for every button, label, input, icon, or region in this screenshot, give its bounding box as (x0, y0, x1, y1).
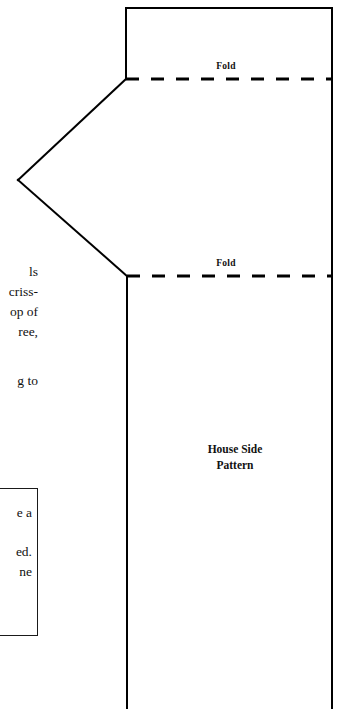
text-fragment-line: ed. (0, 542, 32, 562)
text-fragment-line: e a (0, 503, 32, 523)
pattern-caption-line-1: House Side (185, 441, 285, 457)
fold-label-top: Fold (203, 61, 249, 71)
pattern-caption: House Side Pattern (185, 441, 285, 473)
pattern-outline-upper-diagonal (18, 79, 126, 180)
text-fragment-line: ree, (0, 322, 38, 342)
text-fragment-line: ne (0, 562, 32, 582)
text-fragment-line (0, 523, 32, 543)
note-box-text-fragment: e a ed.ne (0, 503, 32, 581)
left-column-text-fragment-lower: g to (0, 371, 38, 391)
text-fragment-line: op of (0, 302, 38, 322)
text-fragment-line: g to (0, 371, 38, 391)
text-fragment-line: criss- (0, 282, 38, 302)
text-fragment-line: ls (0, 262, 38, 282)
house-side-pattern-drawing (0, 0, 347, 709)
pattern-caption-line-2: Pattern (185, 457, 285, 473)
left-column-text-fragment-upper: lscriss-op ofree, (0, 262, 38, 342)
fold-label-bottom: Fold (203, 258, 249, 268)
pattern-page: Fold Fold House Side Pattern lscriss-op … (0, 0, 347, 709)
